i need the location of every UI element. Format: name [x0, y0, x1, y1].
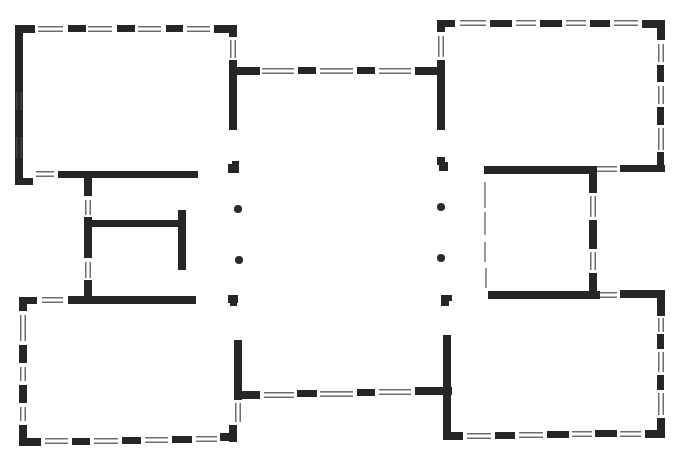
window-opening — [86, 262, 90, 278]
wall-segment — [589, 166, 597, 193]
wall-segment — [657, 65, 664, 82]
wall-segment — [645, 430, 665, 438]
wall-segment — [657, 334, 664, 349]
window-opening — [231, 40, 235, 58]
wall-segment — [437, 157, 445, 165]
window-opening — [659, 44, 663, 62]
window-opening — [591, 252, 595, 270]
window-opening — [566, 21, 586, 25]
window-opening — [187, 27, 210, 31]
wall-segment — [657, 290, 665, 316]
wall-segment — [84, 220, 184, 227]
columns — [234, 203, 445, 264]
window-opening — [21, 367, 25, 381]
window-opening — [591, 196, 595, 217]
wall-segment — [117, 25, 135, 32]
window-opening — [659, 128, 663, 150]
wall-segment — [297, 390, 317, 397]
window-opening — [572, 432, 592, 436]
window-opening — [519, 433, 543, 437]
wall-segment — [229, 60, 237, 130]
wall-segment — [490, 20, 512, 27]
wall-segment — [620, 165, 665, 172]
wall-segment — [166, 25, 183, 32]
floor-plan — [0, 0, 675, 463]
window-opening — [659, 393, 663, 415]
window-opening — [42, 298, 63, 302]
wall-segment — [234, 340, 242, 400]
wall-segment — [357, 389, 375, 396]
wall-segment — [15, 178, 33, 185]
window-opening — [36, 172, 54, 176]
window-opening — [659, 86, 663, 104]
wall-segment — [495, 432, 515, 439]
wall-segment — [230, 295, 237, 306]
window-opening — [659, 318, 663, 332]
wall-segment — [595, 430, 617, 437]
window-opening — [264, 393, 294, 397]
wall-segment — [220, 433, 237, 441]
wall-segment — [441, 295, 452, 301]
window-openings — [17, 21, 663, 443]
wall-segment — [229, 25, 237, 37]
window-opening — [320, 69, 353, 73]
window-opening — [86, 200, 90, 215]
window-opening — [21, 315, 25, 341]
wall-segment — [589, 220, 597, 249]
wall-segment — [415, 387, 443, 395]
column-dot — [437, 203, 445, 211]
wall-segment — [19, 297, 37, 304]
wall-segment — [178, 210, 186, 270]
wall-segment — [657, 107, 664, 125]
wall-segment — [590, 20, 610, 27]
wall-segment — [657, 20, 665, 40]
wall-segment — [19, 345, 27, 363]
light-partition — [485, 182, 486, 288]
wall-segment — [484, 166, 591, 174]
wall-segments — [15, 20, 665, 446]
window-opening — [138, 27, 161, 31]
wall-segment — [547, 431, 569, 438]
window-opening — [196, 437, 217, 441]
wall-segment — [15, 25, 35, 33]
wall-segment — [437, 20, 455, 27]
column-dot — [235, 256, 243, 264]
wall-segment — [19, 385, 27, 403]
wall-segment — [437, 60, 445, 130]
window-opening — [379, 390, 411, 394]
wall-segment — [84, 171, 92, 196]
wall-segment — [415, 67, 438, 75]
wall-segment — [298, 67, 316, 74]
window-opening — [88, 27, 112, 31]
window-opening — [516, 21, 536, 25]
wall-segment — [58, 171, 198, 178]
window-opening — [45, 439, 68, 443]
wall-segment — [488, 291, 600, 299]
column-dot — [437, 254, 445, 262]
wall-segment — [540, 20, 562, 27]
wall-segment — [357, 67, 375, 74]
window-opening — [379, 69, 411, 73]
window-opening — [467, 434, 491, 438]
wall-segment — [122, 437, 141, 444]
window-opening — [460, 21, 486, 25]
wall-segment — [172, 436, 192, 443]
window-opening — [320, 392, 353, 396]
window-opening — [659, 352, 663, 372]
wall-segment — [19, 425, 27, 445]
window-opening — [236, 403, 240, 422]
window-opening — [597, 167, 617, 171]
column-dot — [234, 205, 242, 213]
window-opening — [262, 69, 294, 73]
window-opening — [614, 21, 638, 25]
window-opening — [620, 432, 641, 436]
window-opening — [145, 438, 168, 442]
wall-segment — [68, 25, 86, 32]
window-opening — [94, 439, 118, 443]
window-opening — [439, 36, 443, 57]
wall-segment — [72, 438, 90, 445]
wall-segment — [232, 161, 239, 168]
wall-segment — [237, 67, 260, 75]
wall-segment — [657, 375, 664, 390]
window-opening — [21, 407, 25, 421]
